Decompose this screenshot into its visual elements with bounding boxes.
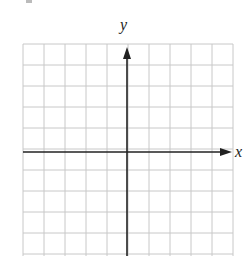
- y-axis-label: y: [120, 16, 127, 34]
- x-axis-label: x: [235, 143, 242, 161]
- coordinate-plane: [0, 0, 247, 256]
- grid-lines: [23, 44, 233, 256]
- y-axis-arrow-icon: [123, 47, 131, 59]
